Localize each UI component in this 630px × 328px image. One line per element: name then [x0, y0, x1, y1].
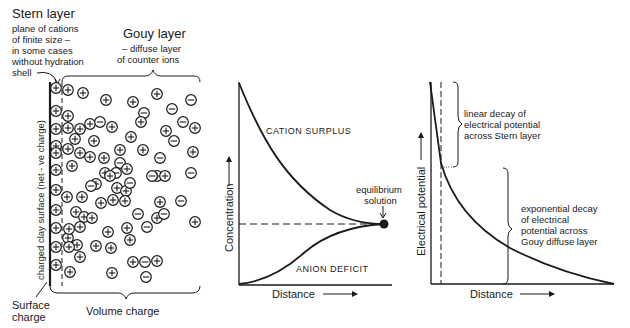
gouy-ions [62, 85, 201, 283]
y-axis-label: Electrical potential [415, 167, 427, 256]
cation-icon [67, 161, 78, 172]
anion-icon [155, 153, 166, 164]
anion-deficit-label: ANION DEFICIT [296, 264, 369, 274]
svg-text:of finite size –: of finite size – [12, 34, 71, 45]
anion-icon [178, 117, 189, 128]
cation-icon [75, 252, 86, 263]
surface-pointer-arrow [36, 282, 47, 297]
anion-icon [167, 104, 178, 115]
y-axis-label: Concentration [223, 184, 235, 253]
stern-note: electrical potential [464, 119, 540, 130]
anion-icon [133, 209, 144, 220]
cation-icon [51, 148, 62, 159]
cation-icon [115, 145, 126, 156]
stern-layer-title: Stern layer [12, 6, 76, 21]
cation-icon [190, 217, 201, 228]
cation-icon [152, 89, 163, 100]
cation-icon [91, 241, 102, 252]
anion-icon [141, 272, 152, 283]
anion-icon [159, 209, 170, 220]
volume-charge-label: Volume charge [86, 305, 159, 317]
volume-brace [50, 286, 200, 299]
svg-text:in some cases: in some cases [12, 45, 73, 56]
cation-icon [75, 222, 86, 233]
cation-icon [105, 171, 116, 182]
cation-icon [188, 147, 199, 158]
cation-icon [51, 260, 62, 271]
cation-icon [190, 123, 201, 134]
cation-icon [65, 267, 76, 278]
stern-note: linear decay of [464, 108, 526, 119]
cation-surplus-label: CATION SURPLUS [266, 126, 351, 136]
svg-text:shell: shell [12, 67, 32, 78]
cation-icon [51, 124, 62, 135]
cation-icon [63, 111, 74, 122]
stern-layer-description: plane of cations of finite size – in som… [11, 23, 84, 78]
arrowhead-icon [418, 132, 424, 138]
surface-charge-label: Surface [12, 299, 50, 311]
cation-icon [64, 242, 75, 253]
cation-icon [120, 196, 131, 207]
cation-icon [89, 136, 100, 147]
x-axis-label: Distance [470, 288, 513, 300]
gouy-note: exponential decay [521, 203, 598, 214]
equilibrium-label: solution [364, 195, 397, 206]
cation-icon [155, 197, 166, 208]
cation-icon [161, 126, 172, 137]
panel-concentration-chart: equilibrium solution CATION SURPLUS ANIO… [223, 82, 402, 300]
gouy-note: potential across [521, 225, 588, 236]
anion-icon [95, 117, 106, 128]
cation-icon [96, 198, 107, 209]
arrowhead-icon [226, 156, 232, 162]
clay-surface-label: charged clay surface (net - ve charge) [35, 120, 46, 280]
cation-icon [125, 235, 136, 246]
svg-text:without hydration: without hydration [11, 56, 84, 67]
anion-icon [142, 222, 153, 233]
cation-icon [51, 106, 62, 117]
cation-icon [99, 153, 110, 164]
cation-curve [239, 83, 384, 224]
cation-icon [122, 223, 133, 234]
cation-icon [77, 192, 88, 203]
gouy-layer-title: Gouy layer [123, 26, 187, 41]
arrowhead-icon [549, 291, 555, 297]
gouy-brace [62, 70, 200, 82]
cation-icon [138, 145, 149, 156]
anion-icon [186, 95, 197, 106]
cation-icon [136, 117, 147, 128]
gouy-note: of electrical [521, 214, 569, 225]
stern-ions [51, 83, 62, 271]
cation-icon [51, 242, 62, 253]
anion-icon [186, 168, 197, 179]
double-layer-diagram: Stern layer plane of cations of finite s… [0, 0, 630, 328]
cation-icon [103, 227, 114, 238]
gouy-note: Gouy diffuse layer [521, 236, 597, 247]
cation-icon [75, 124, 86, 135]
stern-pointer-arrow [37, 72, 57, 82]
cation-icon [63, 144, 74, 155]
cation-icon [51, 223, 62, 234]
anion-icon [169, 136, 180, 147]
cation-icon [51, 83, 62, 94]
cation-icon [63, 123, 74, 134]
anion-icon [86, 181, 97, 192]
cation-icon [101, 95, 112, 106]
cation-icon [152, 256, 163, 267]
cation-icon [128, 97, 139, 108]
anion-icon [176, 196, 187, 207]
equilibrium-label: equilibrium [356, 184, 402, 195]
cation-icon [126, 132, 137, 143]
anion-curve [239, 224, 384, 284]
cation-icon [107, 268, 118, 279]
cation-icon [75, 148, 86, 159]
arrowhead-icon [352, 291, 358, 297]
cation-icon [51, 205, 62, 216]
stern-note: across Stern layer [464, 130, 541, 141]
cation-icon [62, 192, 73, 203]
cation-icon [106, 243, 117, 254]
panel-diffuse-double-layer: Stern layer plane of cations of finite s… [11, 6, 200, 323]
stern-brace [453, 82, 462, 167]
cation-icon [107, 122, 118, 133]
svg-text:plane of cations: plane of cations [12, 23, 79, 34]
cation-icon [87, 213, 98, 224]
